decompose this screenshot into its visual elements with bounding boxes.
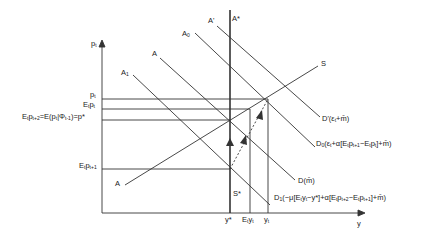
S-label: S xyxy=(321,60,326,68)
Etpt1-label: Etpt+1 xyxy=(79,162,97,170)
yt-label: yt xyxy=(264,216,269,224)
arrow-adjust-icon-1 xyxy=(240,135,247,145)
D0-label: D0(εt+α[Etpt+1−Etpt]+m̄) xyxy=(316,140,391,148)
A0-line xyxy=(195,33,315,147)
A-star-label: A* xyxy=(232,15,240,23)
pt-label: pt xyxy=(90,91,96,99)
A-line xyxy=(160,58,295,180)
A-lower-label: A xyxy=(115,180,120,188)
A0-label: A0 xyxy=(182,30,190,38)
A-prime-label: A' xyxy=(208,17,214,25)
A-label: A xyxy=(152,50,157,58)
y-axis-label: pt xyxy=(91,40,97,48)
A1-label: A1 xyxy=(121,69,129,77)
adjustment-path xyxy=(230,99,268,169)
Etyt-label: Etyt xyxy=(242,216,254,224)
Etpt-label: Etpt xyxy=(83,101,95,109)
y-axis-arrow-icon xyxy=(99,40,105,47)
pstar-label: Etpt+2=E(pt|Φt-1)=p* xyxy=(22,113,85,121)
x-axis-label: y xyxy=(357,220,361,228)
arrow-up-icon xyxy=(226,138,234,146)
A1-line xyxy=(133,75,270,205)
x-axis-arrow-icon xyxy=(358,210,365,216)
ystar-label: y* xyxy=(225,216,232,224)
S-star-label: S* xyxy=(233,190,241,198)
D1-label: D1(−μ[Etyt−y*]+α[Etpt+2−Etpt+1]+m̄) xyxy=(274,194,386,202)
S-line xyxy=(125,66,318,185)
D-prime-label: D'(εt+m̄) xyxy=(322,115,349,123)
D-label: D(m̄) xyxy=(298,177,315,185)
